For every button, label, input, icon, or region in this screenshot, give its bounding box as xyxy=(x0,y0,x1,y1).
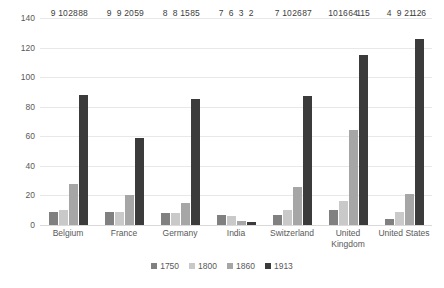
legend-swatch-icon xyxy=(151,263,157,269)
legend-item[interactable]: 1860 xyxy=(227,262,255,271)
bar[interactable]: 4 xyxy=(385,219,394,225)
bar-slot: 87 xyxy=(303,18,312,225)
y-tick-label: 20 xyxy=(26,190,35,200)
bar-group: 9102888 xyxy=(40,18,96,225)
bar[interactable]: 26 xyxy=(293,187,302,225)
bars-row: 881585 xyxy=(152,18,208,225)
bar[interactable]: 9 xyxy=(395,212,404,225)
bar[interactable]: 59 xyxy=(135,138,144,225)
bar[interactable]: 7 xyxy=(217,215,226,225)
legend-item[interactable]: 1913 xyxy=(265,262,293,271)
legend-swatch-icon xyxy=(227,263,233,269)
bar-value-label: 4 xyxy=(387,9,392,18)
bar-slot: 115 xyxy=(359,18,368,225)
bar-value-label: 10 xyxy=(58,9,67,18)
y-tick-label: 140 xyxy=(21,13,35,23)
bar-slot: 59 xyxy=(135,18,144,225)
bar-slot: 8 xyxy=(171,18,180,225)
bar-slot: 10 xyxy=(283,18,292,225)
x-tick-label: United Kingdom xyxy=(320,228,376,250)
bar-group: 7102687 xyxy=(264,18,320,225)
bar[interactable]: 85 xyxy=(191,99,200,225)
bar-value-label: 126 xyxy=(412,9,426,18)
bar[interactable]: 10 xyxy=(59,210,68,225)
gridline: 0 xyxy=(40,225,432,226)
bar[interactable]: 88 xyxy=(79,95,88,225)
bar[interactable]: 10 xyxy=(329,210,338,225)
bar-slot: 9 xyxy=(105,18,114,225)
bar-slot: 21 xyxy=(405,18,414,225)
bar-value-label: 15 xyxy=(180,9,189,18)
bar-value-label: 85 xyxy=(190,9,199,18)
bar[interactable]: 8 xyxy=(161,213,170,225)
x-axis-labels: BelgiumFranceGermanyIndiaSwitzerlandUnit… xyxy=(40,228,432,250)
bar[interactable]: 10 xyxy=(283,210,292,225)
bar-slot: 9 xyxy=(115,18,124,225)
legend-swatch-icon xyxy=(189,263,195,269)
bar-value-label: 7 xyxy=(219,9,224,18)
bar-value-label: 16 xyxy=(338,9,347,18)
legend-label: 1750 xyxy=(160,262,179,271)
bar-slot: 28 xyxy=(69,18,78,225)
bar[interactable]: 9 xyxy=(115,212,124,225)
bar[interactable]: 16 xyxy=(339,201,348,225)
bar-slot: 9 xyxy=(395,18,404,225)
bar[interactable]: 64 xyxy=(349,130,358,225)
legend-label: 1860 xyxy=(236,262,255,271)
y-tick-label: 120 xyxy=(21,43,35,53)
y-tick-label: 100 xyxy=(21,72,35,82)
bar-value-label: 28 xyxy=(68,9,77,18)
bar-value-label: 8 xyxy=(163,9,168,18)
bar-slot: 7 xyxy=(273,18,282,225)
bar-slot: 6 xyxy=(227,18,236,225)
bar-slot: 15 xyxy=(181,18,190,225)
bar-slot: 85 xyxy=(191,18,200,225)
bar[interactable]: 9 xyxy=(49,212,58,225)
bars-row: 4921126 xyxy=(376,18,432,225)
bar-value-label: 2 xyxy=(249,9,254,18)
bars-row: 7632 xyxy=(208,18,264,225)
bar-chart: UK 1900 = 100 020406080100120140 9102888… xyxy=(0,0,444,288)
legend-label: 1913 xyxy=(274,262,293,271)
bar[interactable]: 6 xyxy=(227,216,236,225)
legend: 1750180018601913 xyxy=(0,262,444,271)
bar-slot: 7 xyxy=(217,18,226,225)
x-tick-label: Switzerland xyxy=(264,228,320,250)
x-tick-label: United States xyxy=(376,228,432,250)
bar-value-label: 87 xyxy=(302,9,311,18)
legend-item[interactable]: 1800 xyxy=(189,262,217,271)
bar-slot: 10 xyxy=(329,18,338,225)
bar[interactable]: 20 xyxy=(125,195,134,225)
bar-value-label: 6 xyxy=(229,9,234,18)
bar-slot: 3 xyxy=(237,18,246,225)
bar[interactable]: 3 xyxy=(237,221,246,225)
bar[interactable]: 7 xyxy=(273,215,282,225)
bar-slot: 16 xyxy=(339,18,348,225)
bar-value-label: 9 xyxy=(117,9,122,18)
bar-slot: 88 xyxy=(79,18,88,225)
bar-groups: 9102888992059881585763271026871016641154… xyxy=(40,18,432,225)
bar[interactable]: 87 xyxy=(303,96,312,225)
bars-row: 9102888 xyxy=(40,18,96,225)
bar[interactable]: 15 xyxy=(181,203,190,225)
bar[interactable]: 8 xyxy=(171,213,180,225)
bar-slot: 64 xyxy=(349,18,358,225)
bar-value-label: 8 xyxy=(173,9,178,18)
bar-group: 4921126 xyxy=(376,18,432,225)
y-tick-label: 0 xyxy=(30,220,35,230)
bar-value-label: 20 xyxy=(124,9,133,18)
legend-item[interactable]: 1750 xyxy=(151,262,179,271)
y-tick-label: 80 xyxy=(26,102,35,112)
bar[interactable]: 115 xyxy=(359,55,368,225)
bar[interactable]: 28 xyxy=(69,184,78,225)
bar-slot: 9 xyxy=(49,18,58,225)
bar-group: 881585 xyxy=(152,18,208,225)
plot-area: 020406080100120140 910288899205988158576… xyxy=(40,18,432,225)
bar[interactable]: 9 xyxy=(105,212,114,225)
bar[interactable]: 126 xyxy=(415,39,424,225)
bar-group: 7632 xyxy=(208,18,264,225)
bar-group: 992059 xyxy=(96,18,152,225)
bar-slot: 26 xyxy=(293,18,302,225)
bar[interactable]: 21 xyxy=(405,194,414,225)
bar[interactable]: 2 xyxy=(247,222,256,225)
